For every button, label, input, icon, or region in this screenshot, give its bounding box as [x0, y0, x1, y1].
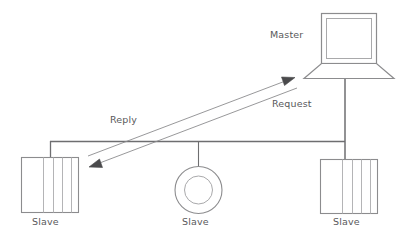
slave-right-label: Slave [333, 216, 360, 227]
diagram-graphics [0, 0, 409, 240]
slave-left-icon [22, 158, 79, 213]
slave-right-icon [321, 160, 378, 214]
laptop-screen-inner [327, 19, 372, 59]
reply-arrow [89, 88, 297, 168]
diagram-canvas: Master Request Reply Slave Slave Slave [0, 0, 409, 240]
reply-arrow-head [89, 159, 103, 168]
slave-left-body [22, 158, 79, 213]
laptop-base [304, 64, 394, 79]
ring-inner-circle [185, 176, 213, 204]
laptop-icon [304, 14, 394, 79]
slave-right-body [321, 160, 378, 214]
master-label: Master [270, 29, 303, 40]
reply-arrow-label: Reply [110, 114, 137, 125]
slave-left-label: Slave [32, 216, 59, 227]
reply-arrow-shaft [97, 88, 297, 164]
slave-middle-label: Slave [182, 216, 209, 227]
request-arrow-label: Request [272, 98, 312, 109]
request-arrow-head [282, 77, 296, 86]
slave-middle-icon [175, 167, 222, 214]
